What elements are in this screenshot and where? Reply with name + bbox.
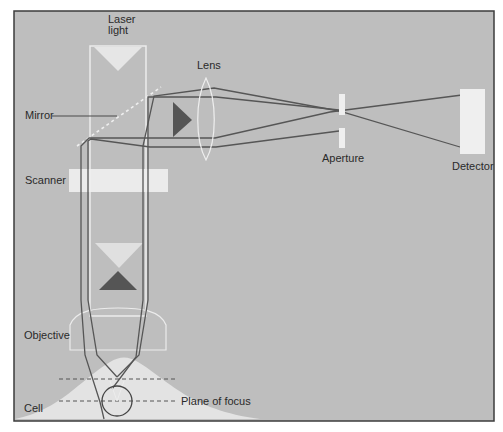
detector-label: Detector [452,161,494,172]
detector [460,89,485,154]
scanner-label: Scanner [25,175,66,186]
diagram-canvas [0,0,503,432]
aperture-top [339,94,345,115]
objective-label: Objective [24,330,70,341]
aperture-bottom [339,128,345,148]
mirror-label: Mirror [25,110,54,121]
aperture-label: Aperture [322,153,364,164]
confocal-diagram: Laser light Lens Mirror Scanner Aperture… [0,0,503,432]
lens-label: Lens [197,60,221,71]
cell-label: Cell [24,403,43,414]
scanner-bar [69,169,168,192]
plane-of-focus-label: Plane of focus [181,396,251,407]
laser-light-label: Laser light [108,14,136,36]
laser-label-line2: light [108,25,136,36]
